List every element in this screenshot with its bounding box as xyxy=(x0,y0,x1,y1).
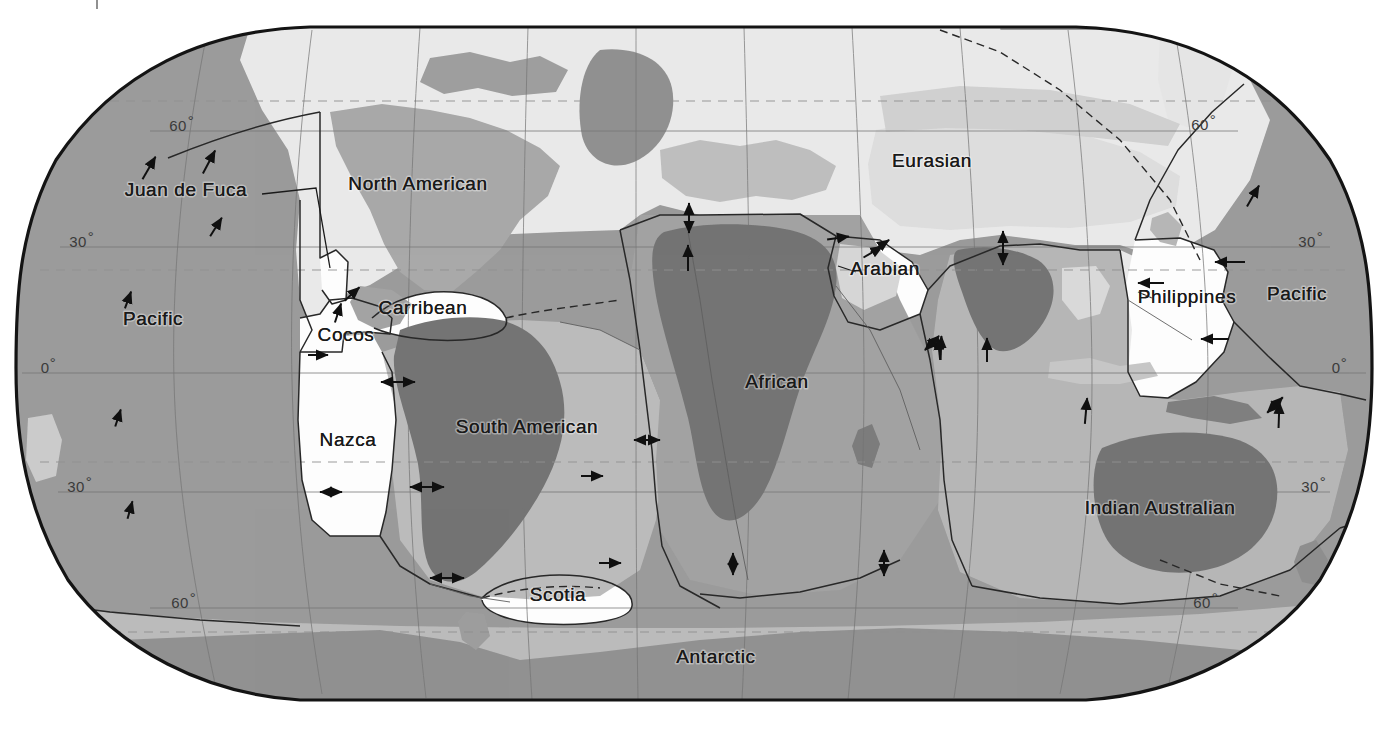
plate-label: Carribean xyxy=(379,297,468,318)
latitude-label-text: 30 xyxy=(67,478,84,495)
plate-label: Pacific xyxy=(1267,283,1327,304)
latitude-degree-symbol: ° xyxy=(1210,111,1216,128)
plate-label: Indian Australian xyxy=(1085,497,1236,518)
plate-label: South American xyxy=(456,416,599,437)
plate-label: Scotia xyxy=(530,584,586,605)
world-map-svg: Juan de FucaJuan de FucaPacificPacificNo… xyxy=(0,0,1386,736)
latitude-label-text: 30 xyxy=(1298,233,1315,250)
latitude-label-text: 30 xyxy=(69,233,86,250)
latitude-degree-symbol: ° xyxy=(50,354,56,371)
tectonic-plates-map: Juan de FucaJuan de FucaPacificPacificNo… xyxy=(0,0,1386,736)
latitude-label-text: 60 xyxy=(171,594,188,611)
latitude-label-text: 30 xyxy=(1301,478,1318,495)
latitude-label-text: 60 xyxy=(169,117,186,134)
latitude-degree-symbol: ° xyxy=(88,228,94,245)
plate-label: Eurasian xyxy=(892,150,972,171)
latitude-degree-symbol: ° xyxy=(1212,589,1218,606)
latitude-label-text: 60 xyxy=(1193,594,1210,611)
latitude-label-text: 60 xyxy=(1191,116,1208,133)
plate-label: Cocos xyxy=(318,324,375,345)
latitude-degree-symbol: ° xyxy=(1317,228,1323,245)
plate-label: Pacific xyxy=(123,308,183,329)
plate-label: Juan de Fuca xyxy=(125,179,247,200)
latitude-degree-symbol: ° xyxy=(1320,473,1326,490)
latitude-degree-symbol: ° xyxy=(188,112,194,129)
latitude-degree-symbol: ° xyxy=(86,473,92,490)
plate-label: Antarctic xyxy=(676,646,755,667)
latitude-label-text: 0 xyxy=(41,359,50,376)
plate-label: Nazca xyxy=(320,429,377,450)
latitude-degree-symbol: ° xyxy=(1341,354,1347,371)
latitude-degree-symbol: ° xyxy=(190,589,196,606)
plate-label: North American xyxy=(348,173,487,194)
motion-arrow xyxy=(1279,402,1280,428)
plate-label: Philippines xyxy=(1138,286,1237,307)
latitude-label-text: 0 xyxy=(1332,359,1341,376)
plate-label: African xyxy=(745,371,808,392)
plate-label: Arabian xyxy=(850,258,920,279)
